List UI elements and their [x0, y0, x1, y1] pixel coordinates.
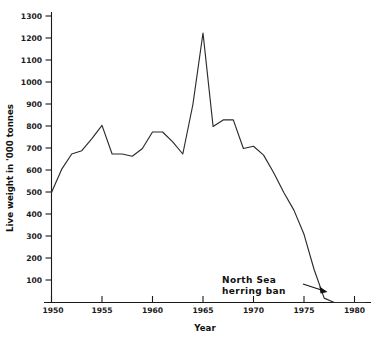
x-tick-label: 1970 — [243, 306, 264, 315]
y-tick-label: 300 — [26, 232, 42, 241]
y-tick-label: 900 — [26, 100, 42, 109]
y-tick-label: 1000 — [21, 78, 42, 87]
annotation-line-1: North Sea — [222, 275, 276, 285]
annotation-line-2: herring ban — [222, 286, 286, 296]
x-axis-ticks: 1950 1955 1960 1965 1970 1975 1980 — [42, 296, 365, 315]
y-tick-label: 600 — [26, 166, 42, 175]
y-axis-ticks: 100 200 300 400 500 600 700 800 900 1000… — [21, 12, 52, 285]
y-tick-label: 1200 — [21, 34, 42, 43]
x-tick-label: 1980 — [344, 306, 365, 315]
x-tick-label: 1960 — [142, 306, 163, 315]
x-tick-label: 1975 — [293, 306, 314, 315]
y-tick-label: 1100 — [21, 56, 42, 65]
x-axis-title: Year — [193, 323, 216, 333]
y-tick-label: 100 — [26, 276, 42, 285]
y-tick-label: 800 — [26, 122, 42, 131]
y-tick-label: 700 — [26, 144, 42, 153]
x-tick-label: 1950 — [42, 306, 63, 315]
annotation-arrow-head — [320, 287, 328, 294]
y-axis-title: Live weight in '000 tonnes — [5, 104, 15, 232]
y-tick-label: 500 — [26, 188, 42, 197]
x-tick-label: 1965 — [192, 306, 213, 315]
y-tick-label: 200 — [26, 254, 42, 263]
y-tick-label: 1300 — [21, 12, 42, 21]
y-tick-label: 400 — [26, 210, 42, 219]
x-tick-label: 1955 — [91, 306, 112, 315]
herring-ban-annotation: North Sea herring ban — [222, 275, 328, 296]
chart-container: Live weight in '000 tonnes 100 200 300 4… — [0, 0, 380, 337]
data-line-herring-landings — [52, 33, 365, 303]
line-chart: Live weight in '000 tonnes 100 200 300 4… — [0, 0, 380, 337]
